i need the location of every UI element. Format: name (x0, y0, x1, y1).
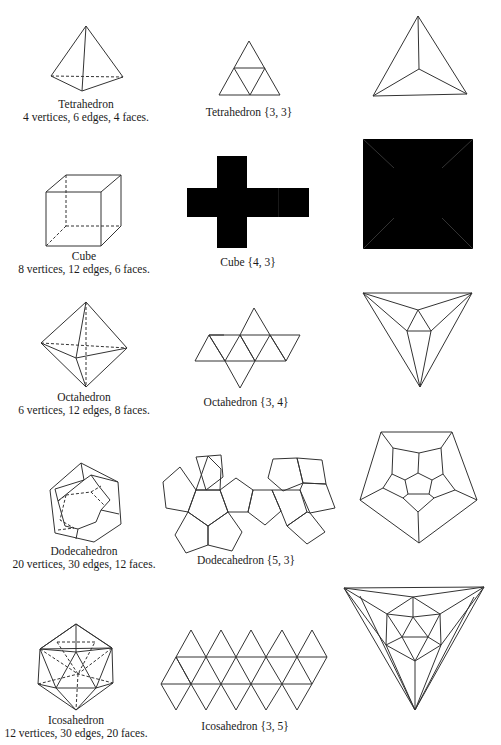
cube-net-label: Cube {4, 3} (220, 256, 275, 269)
icosahedron-net (161, 630, 327, 710)
cube-counts: 8 vertices, 12 edges, 6 faces. (18, 263, 150, 276)
icosahedron-3d (38, 624, 113, 710)
icosahedron-counts: 12 vertices, 30 edges, 20 faces. (4, 727, 147, 740)
dodecahedron-net-label: Dodecahedron {5, 3} (197, 554, 295, 567)
cube-schlegel (363, 139, 473, 249)
icosahedron-schlegel (344, 587, 484, 710)
tetrahedron-counts: 4 vertices, 6 edges, 4 faces. (23, 111, 149, 124)
tetrahedron-net (219, 41, 280, 95)
cube-name: Cube (72, 250, 96, 263)
icosahedron-name: Icosahedron (48, 714, 104, 727)
cube-3d (46, 175, 121, 246)
octahedron-net-label: Octahedron {3, 4} (204, 396, 289, 409)
dodecahedron-counts: 20 vertices, 30 edges, 12 faces. (12, 558, 155, 571)
octahedron-counts: 6 vertices, 12 edges, 8 faces. (18, 404, 150, 417)
dodecahedron-3d (50, 463, 121, 542)
octahedron-schlegel (363, 293, 472, 387)
octahedron-net (195, 308, 300, 388)
dodecahedron-net (163, 455, 335, 553)
octahedron-name: Octahedron (57, 391, 111, 404)
dodecahedron-name: Dodecahedron (50, 545, 117, 558)
tetrahedron-net-label: Tetrahedron {3, 3} (206, 106, 293, 119)
icosahedron-net-label: Icosahedron {3, 5} (201, 720, 288, 733)
tetrahedron-3d (51, 26, 123, 91)
tetrahedron-schlegel (373, 16, 467, 96)
cube-net (187, 156, 309, 248)
dodecahedron-schlegel (360, 432, 477, 543)
octahedron-3d (41, 302, 127, 387)
tetrahedron-name: Tetrahedron (58, 98, 113, 111)
